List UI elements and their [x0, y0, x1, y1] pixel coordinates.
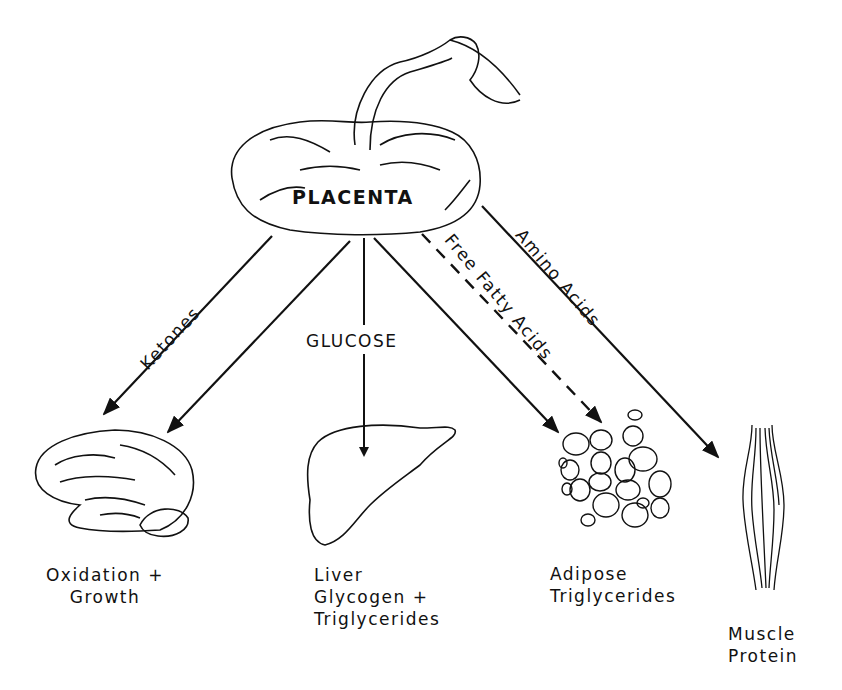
glucose-label: GLUCOSE	[306, 330, 398, 352]
liver-icon	[308, 425, 456, 545]
placenta-label: PLACENTA	[292, 186, 414, 208]
muscle-icon	[743, 425, 784, 590]
brain-icon	[36, 430, 194, 536]
adipose-icon	[559, 410, 671, 527]
muscle-target-label: Muscle Protein	[728, 623, 798, 667]
liver-target-label: Liver Glycogen + Triglycerides	[314, 564, 440, 630]
adipose-target-label: Adipose Triglycerides	[550, 563, 676, 607]
brain-target-label: Oxidation + Growth	[10, 564, 200, 608]
